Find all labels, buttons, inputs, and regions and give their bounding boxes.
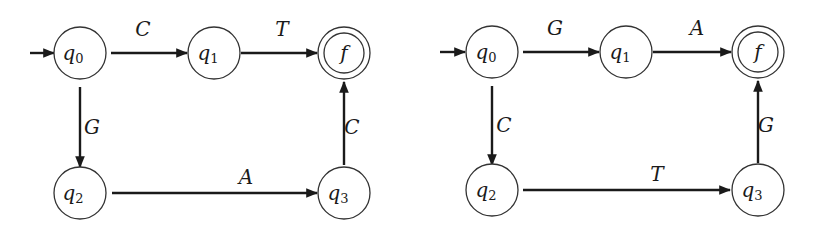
state-f-final: f [318, 27, 370, 79]
label-q0-q2: G [84, 115, 100, 139]
label-q1-f: T [275, 17, 290, 41]
state-q3: q3 [318, 167, 370, 219]
state-f-final: f [732, 26, 784, 78]
automaton-left: q0 q1 f q2 q3 C T G A C [30, 17, 370, 219]
state-q2: q2 [54, 167, 106, 219]
label-q2-q3: A [237, 165, 253, 189]
label-q0-q2: C [496, 113, 511, 137]
state-q3: q3 [732, 164, 784, 216]
label-q2-q3: T [650, 162, 665, 186]
state-q1: q1 [600, 26, 652, 78]
label-q3-f: G [758, 113, 774, 137]
state-q0: q0 [54, 27, 106, 79]
state-q2: q2 [466, 164, 518, 216]
state-q0: q0 [466, 26, 518, 78]
label-q0-q1: G [547, 16, 563, 40]
automaton-right: q0 q1 f q2 q3 G A C T G [440, 16, 784, 216]
label-q3-f: C [344, 115, 359, 139]
label-q1-f: A [688, 16, 704, 40]
automata-figure: q0 q1 f q2 q3 C T G A C [0, 0, 815, 234]
label-q0-q1: C [135, 17, 150, 41]
state-q1: q1 [188, 27, 240, 79]
